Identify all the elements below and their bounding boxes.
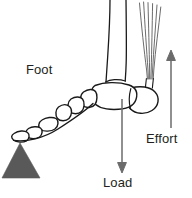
- metatarsal-bone-2: [56, 105, 72, 121]
- lever-diagram-figure: Foot Effort Load: [0, 0, 192, 198]
- load-label: Load: [103, 175, 132, 190]
- tendon-fiber-4: [151, 4, 153, 79]
- fulcrum-triangle: [2, 143, 40, 178]
- effort-arrow-head: [167, 50, 176, 61]
- anatomy-diagram-svg: [0, 0, 192, 198]
- effort-arrow: [167, 50, 176, 128]
- tendon-fiber-3: [148, 3, 150, 79]
- fibula-bone: [125, 0, 126, 81]
- tibia-bone: [106, 0, 110, 82]
- ankle-joint-line: [106, 80, 126, 82]
- foot-skeleton-group: [12, 83, 158, 143]
- effort-label: Effort: [146, 131, 177, 146]
- leg-bones-group: [106, 0, 127, 82]
- load-arrow-head: [118, 163, 127, 174]
- achilles-tendon-group: [140, 2, 161, 88]
- load-arrow: [118, 99, 127, 173]
- tendon-sheath-right: [152, 79, 153, 89]
- tendon-fiber-5: [152, 5, 157, 79]
- foot-label: Foot: [26, 62, 52, 77]
